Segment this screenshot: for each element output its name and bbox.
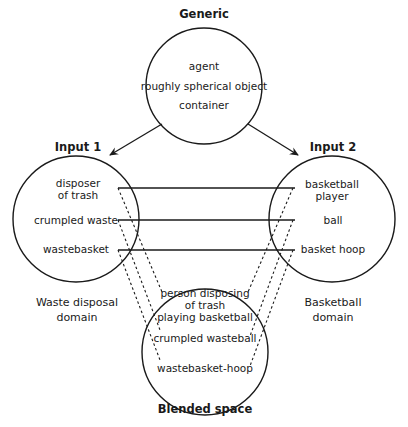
generic-space-title: Generic: [179, 8, 229, 20]
blended-item-crumpled-wasteball: crumpled wasteball: [153, 332, 256, 344]
input1-domain-line2: domain: [56, 311, 97, 325]
projection-input2-container: [250, 250, 293, 366]
input1-item-disposer-line1: disposer: [56, 177, 100, 189]
input2-domain-line1: Basketball: [305, 296, 362, 310]
input1-item-crumpled-waste: crumpled waste: [34, 214, 118, 226]
input1-domain-line1: Waste disposal: [36, 296, 118, 310]
generic-item-spherical-object: roughly spherical object: [141, 80, 267, 92]
input1-title: Input 1: [55, 141, 101, 153]
blended-item-person-line2: of trash: [185, 299, 225, 311]
input2-title: Input 2: [310, 141, 356, 153]
input2-item-ball: ball: [324, 214, 343, 226]
blended-space-title: Blended space: [158, 403, 252, 415]
input1-item-disposer-line2: of trash: [58, 189, 98, 201]
input1-item-wastebasket: wastebasket: [43, 243, 109, 255]
arrow-generic-to-input1: [110, 124, 162, 155]
input2-item-player-line2: player: [315, 190, 348, 202]
input2-item-basket-hoop: basket hoop: [301, 243, 365, 255]
input2-item-player-line1: basketball: [305, 178, 359, 190]
blended-item-wastebasket-hoop: wastebasket-hoop: [157, 362, 253, 374]
blended-item-person-line3: playing basketball: [157, 311, 253, 323]
input2-domain-line2: domain: [312, 311, 353, 325]
arrow-generic-to-input2: [248, 124, 298, 155]
blended-item-person-line1: person disposing: [160, 287, 249, 299]
projection-input1-object: [118, 220, 160, 330]
generic-item-agent: agent: [189, 60, 219, 72]
generic-item-container: container: [179, 99, 229, 111]
